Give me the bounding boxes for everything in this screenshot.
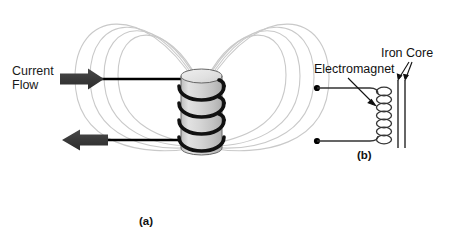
iron-core-pointer-arrows [397, 62, 412, 80]
panel-a-group [60, 24, 329, 155]
current-arrow-out [62, 130, 108, 151]
panel-b-caption: (b) [357, 149, 372, 162]
current-arrow-in [60, 69, 104, 90]
circuit-wire-top [317, 88, 378, 94]
electromagnet-pointer-arrow [348, 78, 376, 106]
iron-core-bars [398, 80, 405, 148]
figure-container: Current Flow Electromagnet Iron Core (a)… [0, 0, 451, 239]
current-flow-label: Current Flow [12, 64, 54, 92]
electromagnet-figure-svg [0, 0, 451, 239]
circuit-wire-bottom [317, 136, 378, 141]
cylinder-top-face [181, 69, 222, 83]
panel-a-caption: (a) [139, 215, 153, 228]
electromagnet-label: Electromagnet [314, 62, 395, 76]
iron-core-label: Iron Core [381, 46, 433, 60]
electromagnet-coil-symbol [377, 87, 392, 144]
